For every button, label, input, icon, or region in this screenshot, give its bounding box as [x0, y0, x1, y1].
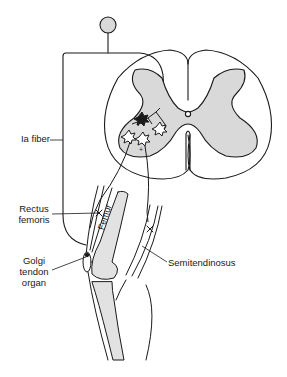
golgi-leader — [52, 257, 86, 270]
semitendinosus-leader — [142, 246, 167, 262]
golgi-label-line1: Golgi — [14, 255, 54, 266]
plus-sign: + — [139, 146, 143, 153]
golgi-tendon-organ-label: Golgi tendon organ — [14, 255, 54, 288]
sensory-soma-icon — [100, 17, 116, 52]
golgi-label-line3: organ — [14, 277, 54, 288]
rectus-femoris-label-line2: femoris — [16, 214, 52, 225]
semitendinosus-muscle — [126, 205, 162, 278]
semitendinosus-tendon — [116, 280, 126, 300]
golgi-tendon-organ-icon — [85, 253, 89, 257]
rectus-femoris-label-line1: Rectus — [16, 203, 52, 214]
ia-fiber-label: Ia fiber — [4, 133, 50, 144]
golgi-label-line2: tendon — [14, 266, 54, 277]
central-canal — [185, 111, 190, 116]
motor-axon-semitendinosus — [145, 146, 149, 222]
diagram-canvas: + — [0, 0, 287, 377]
rectus-femoris-label: Rectus femoris — [16, 203, 52, 225]
semitendinosus-label: Semitendinosus — [168, 257, 236, 268]
